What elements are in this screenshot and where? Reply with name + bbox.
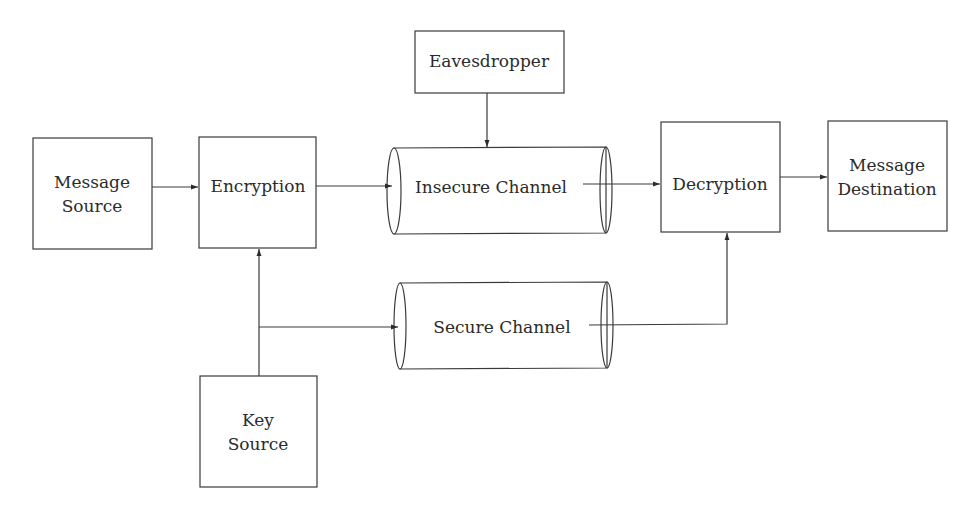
key-source-label-line2: Source <box>228 434 289 454</box>
key-source-label-line1: Key <box>242 410 274 430</box>
eavesdropper-box: Eavesdropper <box>415 31 564 93</box>
message-destination-box: Message Destination <box>828 121 947 231</box>
insecure-channel-label: Insecure Channel <box>415 177 567 197</box>
secure-channel-cylinder: Secure Channel <box>394 282 613 369</box>
insecure-channel-cylinder: Insecure Channel <box>387 147 612 234</box>
message-destination-label-line1: Message <box>849 155 925 175</box>
message-source-label-line2: Source <box>62 196 123 216</box>
message-source-box: Message Source <box>33 138 152 249</box>
message-destination-label-line2: Destination <box>837 179 936 199</box>
encryption-label: Encryption <box>211 176 306 196</box>
message-source-label-line1: Message <box>54 172 130 192</box>
cryptosystem-diagram: Message Source Encryption Eavesdropper I… <box>0 0 971 518</box>
arrow-secure-channel-to-decryption <box>589 233 727 325</box>
key-source-box: Key Source <box>200 376 317 487</box>
secure-channel-label: Secure Channel <box>433 317 570 337</box>
decryption-label: Decryption <box>672 174 767 194</box>
encryption-box: Encryption <box>199 137 316 248</box>
eavesdropper-label: Eavesdropper <box>429 51 550 71</box>
decryption-box: Decryption <box>661 122 780 232</box>
